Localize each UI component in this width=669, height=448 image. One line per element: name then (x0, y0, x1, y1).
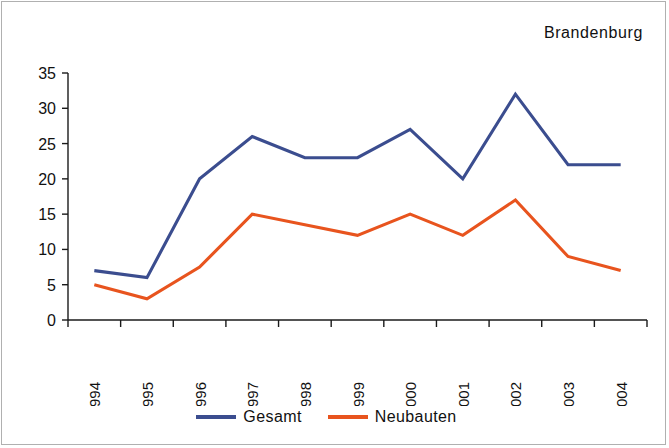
legend-label: Neubauten (375, 408, 457, 426)
legend-swatch-icon (328, 415, 368, 419)
y-tick-label: 25 (38, 136, 56, 153)
chart-legend: GesamtNeubauten (2, 408, 667, 426)
data-series-group (94, 94, 620, 299)
series-line-neubauten (94, 200, 620, 299)
y-tick-label: 5 (47, 277, 56, 294)
series-line-gesamt (94, 94, 620, 277)
y-tick-label: 30 (38, 100, 56, 117)
y-tick-label: 0 (47, 312, 56, 329)
plot-area: 05101520253035 1994199519961997199819992… (2, 2, 667, 406)
y-tick-label: 20 (38, 171, 56, 188)
x-tick-label: 2004 (613, 382, 630, 406)
y-tick-label: 35 (38, 65, 56, 82)
x-tick-label: 1996 (192, 382, 209, 406)
x-tick-label: 1994 (86, 382, 103, 406)
x-tick-label: 1999 (350, 382, 367, 406)
x-tick-label: 1995 (139, 382, 156, 406)
y-tick-label: 10 (38, 241, 56, 258)
x-tick-label: 2003 (560, 382, 577, 406)
y-tick-label: 15 (38, 206, 56, 223)
x-tick-label: 2002 (507, 382, 524, 406)
x-tick-label: 1997 (244, 382, 261, 406)
y-axis: 05101520253035 (38, 65, 68, 329)
legend-label: Gesamt (243, 408, 301, 426)
x-tick-label: 2000 (402, 382, 419, 406)
x-axis: 1994199519961997199819992000200120022003… (68, 320, 647, 406)
chart-container: Brandenburg 05101520253035 1994199519961… (1, 1, 666, 445)
legend-entry-neubauten[interactable]: Neubauten (328, 408, 457, 426)
legend-swatch-icon (196, 415, 236, 419)
legend-entry-gesamt[interactable]: Gesamt (196, 408, 301, 426)
x-tick-label: 2001 (455, 382, 472, 406)
x-tick-label: 1998 (297, 382, 314, 406)
